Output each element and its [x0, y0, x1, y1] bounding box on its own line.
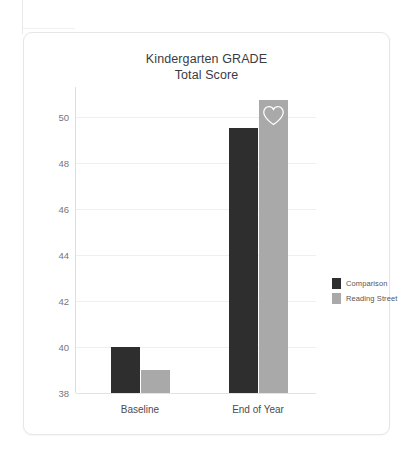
x-axis-label: End of Year: [229, 404, 288, 415]
chart-legend: Comparison Reading Street: [332, 278, 413, 308]
bar-comparison-end-of-year[interactable]: [229, 128, 258, 393]
y-axis-tick-label: 46: [58, 203, 69, 214]
y-axis-tick-label: 44: [58, 249, 69, 260]
legend-swatch-reading-street: [332, 293, 341, 304]
y-axis-tick-label: 38: [58, 388, 69, 399]
y-axis-tick-label: 50: [58, 111, 69, 122]
bar-reading-street-end-of-year[interactable]: [259, 100, 288, 393]
chart-card: Kindergarten GRADE Total Score 384042444…: [23, 32, 390, 435]
bar-group: Baseline: [111, 87, 170, 393]
bar-groups: BaselineEnd of Year: [76, 87, 316, 393]
bar-reading-street-baseline[interactable]: [141, 370, 170, 393]
heart-icon: [262, 105, 285, 126]
page-edge-artifact-2: [23, 28, 75, 29]
gridline: 38: [76, 393, 316, 394]
chart-title: Kindergarten GRADE Total Score: [24, 51, 389, 83]
legend-swatch-comparison: [332, 278, 341, 289]
y-axis-tick-label: 40: [58, 341, 69, 352]
y-axis-tick-label: 42: [58, 295, 69, 306]
x-axis-label: Baseline: [111, 404, 170, 415]
plot-area: 38404244464850 BaselineEnd of Year: [76, 87, 316, 393]
legend-item-comparison[interactable]: Comparison: [332, 278, 413, 289]
legend-item-reading-street[interactable]: Reading Street: [332, 293, 413, 304]
legend-label-reading-street: Reading Street: [346, 294, 397, 303]
bar-group: End of Year: [229, 87, 288, 393]
legend-label-comparison: Comparison: [346, 279, 387, 288]
bar-comparison-baseline[interactable]: [111, 347, 140, 393]
y-axis-tick-label: 48: [58, 157, 69, 168]
